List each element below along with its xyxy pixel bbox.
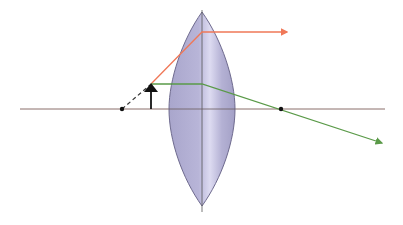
diagram-canvas (0, 0, 403, 225)
focal-point-left (120, 107, 124, 111)
ray-diagram (0, 0, 403, 225)
dashed-extension-ray (122, 85, 150, 109)
focal-point-right (279, 107, 283, 111)
